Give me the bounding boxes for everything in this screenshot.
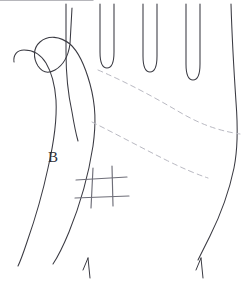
- region-label-b: B: [48, 150, 58, 165]
- figure-background: [0, 0, 252, 288]
- hand-diagram-figure: B: [0, 0, 252, 288]
- hand-outline-graphic: [0, 0, 252, 288]
